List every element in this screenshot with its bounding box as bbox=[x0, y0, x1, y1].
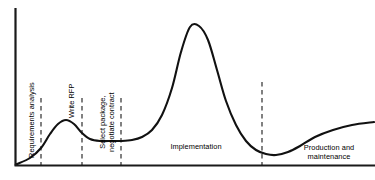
effort-curve-figure: Requirements analysis Write RFP Select p… bbox=[0, 0, 375, 180]
label-implementation: Implementation bbox=[151, 143, 241, 151]
label-production-maintenance: Production and maintenance bbox=[283, 143, 375, 161]
label-requirements-analysis: Requirements analysis bbox=[28, 82, 36, 158]
label-write-rfp: Write RFP bbox=[68, 84, 76, 118]
label-select-package: Select package, negotiate contract bbox=[99, 92, 116, 152]
